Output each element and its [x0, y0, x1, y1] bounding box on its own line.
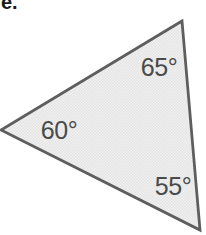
- worksheet-item: e. 65° 60° 55°: [0, 0, 206, 235]
- angle-label-bottom: 55°: [155, 172, 191, 200]
- angle-label-left: 60°: [41, 116, 77, 144]
- triangle-figure: 65° 60° 55°: [0, 0, 206, 235]
- angle-label-top: 65°: [141, 53, 177, 81]
